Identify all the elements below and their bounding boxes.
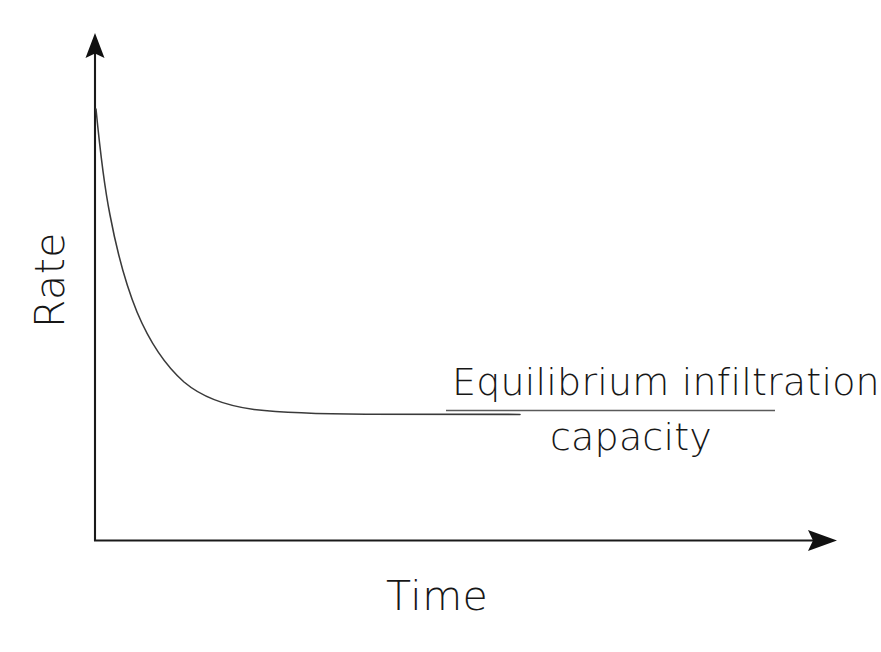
infiltration-rate-figure: Rate Time Equilibrium infiltration capac… <box>0 0 881 652</box>
equilibrium-annotation-line-1: Equilibrium infiltration <box>452 355 852 410</box>
x-axis-label: Time <box>386 576 488 617</box>
y-axis-label-text: Rate <box>30 232 71 328</box>
figure-canvas <box>0 0 881 652</box>
equilibrium-annotation-line-2: capacity <box>452 410 852 465</box>
equilibrium-annotation: Equilibrium infiltration capacity <box>452 355 852 466</box>
y-axis-label: Rate <box>0 232 100 328</box>
